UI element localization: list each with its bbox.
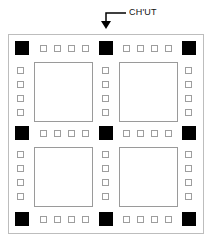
io-pad [54, 216, 61, 223]
io-pad [54, 45, 61, 52]
io-pad [102, 151, 109, 158]
io-pad [102, 109, 109, 116]
io-pad [137, 216, 144, 223]
io-pad [40, 45, 47, 52]
io-pad [40, 216, 47, 223]
io-pad [185, 179, 192, 186]
die-block [34, 62, 93, 122]
corner-pad [182, 41, 196, 55]
die-block [119, 62, 178, 122]
io-pad [17, 165, 24, 172]
arrow-down-icon [100, 8, 128, 30]
annotation-label: CH'UT [129, 7, 157, 17]
io-pad [17, 95, 24, 102]
corner-pad [182, 212, 196, 226]
io-pad [123, 45, 130, 52]
io-pad [165, 130, 172, 137]
io-pad [17, 81, 24, 88]
io-pad [185, 165, 192, 172]
io-pad [102, 179, 109, 186]
corner-pad [99, 126, 113, 140]
io-pad [82, 130, 89, 137]
io-pad [102, 81, 109, 88]
io-pad [185, 151, 192, 158]
io-pad [17, 67, 24, 74]
io-pad [151, 216, 158, 223]
die-block [34, 147, 93, 207]
io-pad [123, 216, 130, 223]
io-pad [68, 130, 75, 137]
io-pad [102, 165, 109, 172]
chip-diagram: CH'UT [0, 0, 214, 246]
corner-pad [15, 212, 29, 226]
io-pad [165, 216, 172, 223]
die-block [119, 147, 178, 207]
corner-pad [99, 212, 113, 226]
corner-pad [15, 41, 29, 55]
io-pad [151, 130, 158, 137]
io-pad [17, 193, 24, 200]
io-pad [185, 95, 192, 102]
io-pad [82, 45, 89, 52]
io-pad [165, 45, 172, 52]
io-pad [137, 130, 144, 137]
io-pad [17, 151, 24, 158]
io-pad [185, 67, 192, 74]
io-pad [68, 216, 75, 223]
io-pad [17, 109, 24, 116]
io-pad [137, 45, 144, 52]
io-pad [17, 179, 24, 186]
io-pad [102, 95, 109, 102]
io-pad [40, 130, 47, 137]
corner-pad [99, 41, 113, 55]
io-pad [54, 130, 61, 137]
io-pad [185, 109, 192, 116]
io-pad [151, 45, 158, 52]
io-pad [102, 67, 109, 74]
io-pad [185, 193, 192, 200]
io-pad [82, 216, 89, 223]
io-pad [123, 130, 130, 137]
io-pad [185, 81, 192, 88]
corner-pad [182, 126, 196, 140]
io-pad [102, 193, 109, 200]
corner-pad [15, 126, 29, 140]
io-pad [68, 45, 75, 52]
